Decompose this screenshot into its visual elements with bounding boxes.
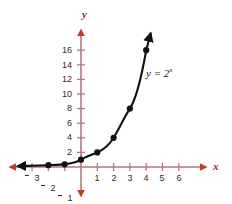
y-tick-label: 8 — [56, 103, 72, 113]
data-point — [111, 135, 117, 141]
x-tick-label: 1 — [90, 173, 104, 183]
data-point — [143, 47, 149, 53]
y-tick-label: 16 — [56, 45, 72, 55]
y-tick-label: 6 — [56, 118, 72, 128]
y-tick-label: 4 — [56, 132, 72, 142]
data-point — [78, 157, 84, 163]
x-tick-label: 2 — [107, 173, 121, 183]
data-point — [45, 162, 51, 168]
y-tick-label: 14 — [56, 60, 72, 70]
equation-exponent: x — [169, 66, 172, 74]
x-tick-label: 2 — [41, 183, 60, 193]
x-tick-label: 6 — [172, 173, 186, 183]
x-tick-label: 3 — [25, 173, 44, 183]
y-tick-label: 10 — [56, 89, 72, 99]
y-tick-label: 12 — [56, 74, 72, 84]
equation-base: y = 2 — [146, 67, 169, 79]
data-point — [62, 161, 68, 167]
data-point — [94, 149, 100, 155]
y-axis-label: y — [82, 8, 87, 20]
x-axis-label: x — [213, 160, 219, 172]
equation-annotation: y = 2x — [146, 66, 172, 79]
data-point — [127, 106, 133, 112]
exponential-function-graph: y x y = 2x 2 4 6 8 10 12 14 16 3 2 1 1 2… — [0, 0, 232, 204]
x-tick-label: 4 — [139, 173, 153, 183]
x-tick-label: 3 — [123, 173, 137, 183]
x-tick-label: 1 — [58, 193, 77, 203]
exponential-curve — [18, 34, 151, 167]
x-tick-label: 5 — [155, 173, 169, 183]
y-tick-label: 2 — [56, 147, 72, 157]
